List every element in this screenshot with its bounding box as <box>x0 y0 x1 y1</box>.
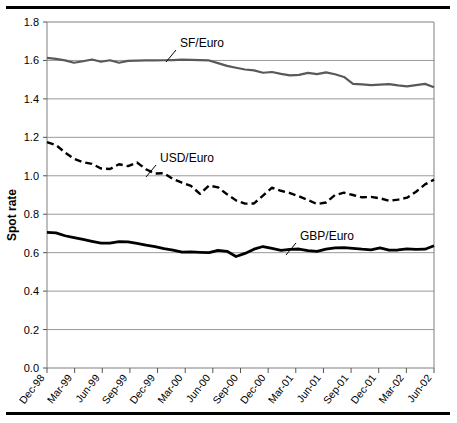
x-axis-tick-label: Jun-99 <box>73 372 102 405</box>
y-axis-tick-label: 0.8 <box>24 208 39 220</box>
series-label-usd-euro: USD/Euro <box>160 151 214 165</box>
x-axis-tick-label: Mar-02 <box>376 372 406 406</box>
x-axis-tick-label: Jun-01 <box>294 372 323 405</box>
x-axis-tick-label: Sep-00 <box>210 372 240 406</box>
series-label-gbp-euro: GBP/Euro <box>300 229 354 243</box>
y-axis-tick-label: 1.4 <box>24 93 39 105</box>
y-axis-tick-label: 0.2 <box>24 324 39 336</box>
y-axis-tick-label: 1.8 <box>24 16 39 28</box>
x-axis-tick-label: Mar-99 <box>44 372 74 406</box>
y-axis-title: Spot rate <box>5 189 19 241</box>
x-axis-labels-group: Dec-98Mar-99Jun-99Sep-99Dec-99Mar-00Jun-… <box>16 372 433 406</box>
spot-rate-line-chart: 0.00.20.40.60.81.01.21.41.61.8 Dec-98Mar… <box>0 0 457 423</box>
y-axis-tick-label: 1.6 <box>24 54 39 66</box>
series-label-sf-euro: SF/Euro <box>180 36 224 50</box>
y-axis-tick-label: 1.0 <box>24 170 39 182</box>
y-axis-tick-label: 1.2 <box>24 131 39 143</box>
x-axis-tick-label: Jun-02 <box>404 372 433 405</box>
x-axis-tick-label: Dec-99 <box>127 372 157 406</box>
plot-area-background <box>47 22 434 368</box>
x-axis-tick-label: Sep-99 <box>99 372 129 406</box>
x-axis-tick-label: Mar-01 <box>265 372 295 406</box>
figure-container: 0.00.20.40.60.81.01.21.41.61.8 Dec-98Mar… <box>0 0 457 423</box>
x-axis-tick-label: Dec-01 <box>348 372 378 406</box>
y-axis-tick-label: 0.6 <box>24 247 39 259</box>
x-axis-tick-label: Jun-00 <box>183 372 212 405</box>
x-axis-tick-label: Mar-00 <box>155 372 185 406</box>
y-axis-tick-label: 0.4 <box>24 285 39 297</box>
y-axis-ticks-group: 0.00.20.40.60.81.01.21.41.61.8 <box>24 16 47 374</box>
x-axis-tick-label: Dec-00 <box>237 372 267 406</box>
x-axis-ticks-group <box>47 368 434 373</box>
x-axis-tick-label: Sep-01 <box>320 372 350 406</box>
x-axis-tick-label: Dec-98 <box>16 372 46 406</box>
